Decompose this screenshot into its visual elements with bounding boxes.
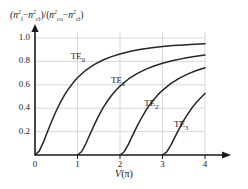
curve-label-text: TE — [71, 51, 82, 61]
curve-label-te0: TE0 — [71, 51, 85, 63]
curve-label-text: TE — [111, 75, 122, 85]
x-axis-label: V(π) — [0, 168, 248, 179]
curve-label-te1: TE1 — [111, 75, 125, 87]
curve-label-mode-index: 1 — [122, 80, 125, 87]
curve-te1 — [78, 55, 206, 155]
curve-label-mode-index: 0 — [82, 56, 85, 63]
x-label-units: (π) — [121, 168, 133, 179]
chart-figure: (n2f−n2cl)/(n2co−n2cl) 0.20.40.60.81.001… — [0, 0, 248, 189]
curve-label-mode-index: 2 — [155, 102, 158, 109]
y-tick-label-2: 0.6 — [8, 79, 30, 89]
curve-label-text: TE — [174, 119, 185, 129]
curve-label-te2: TE2 — [144, 98, 158, 110]
y-tick-label-1: 0.4 — [8, 102, 30, 112]
curve-label-text: TE — [144, 98, 155, 108]
y-tick-label-3: 0.8 — [8, 55, 30, 65]
y-tick-label-0: 0.2 — [8, 126, 30, 136]
curve-label-te3: TE3 — [174, 119, 188, 131]
y-axis-arrowhead — [31, 24, 38, 32]
curve-label-mode-index: 3 — [185, 124, 188, 131]
x-axis-arrowhead — [222, 151, 231, 158]
y-tick-label-4: 1.0 — [8, 32, 30, 42]
